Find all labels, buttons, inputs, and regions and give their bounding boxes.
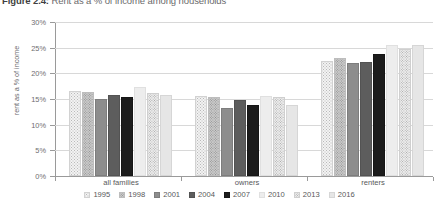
legend-swatch-icon xyxy=(119,192,125,198)
bar-2001-owners[interactable] xyxy=(221,108,233,176)
y-axis-label: 25% xyxy=(0,44,46,53)
bar-1995-renters[interactable] xyxy=(321,61,333,177)
legend-label: 1995 xyxy=(93,191,110,199)
bar-group: all families xyxy=(69,22,173,176)
bar-2013-renters[interactable] xyxy=(399,49,411,176)
legend-label: 2007 xyxy=(233,191,250,199)
x-axis-tick xyxy=(307,177,308,181)
legend-swatch-icon xyxy=(154,192,160,198)
legend-item-2013[interactable]: 2013 xyxy=(294,191,320,199)
legend-item-1998[interactable]: 1998 xyxy=(119,191,145,199)
y-axis-label: 10% xyxy=(0,121,46,130)
legend-label: 2001 xyxy=(163,191,180,199)
bar-1998-renters[interactable] xyxy=(334,58,346,176)
y-axis-label: 20% xyxy=(0,69,46,78)
bar-2016-owners[interactable] xyxy=(286,105,298,176)
legend-label: 1998 xyxy=(128,191,145,199)
bar-2004-renters[interactable] xyxy=(360,62,372,176)
legend-label: 2010 xyxy=(268,191,285,199)
x-axis-category-label: owners xyxy=(195,178,299,187)
figure-title-rest: Rent as a % of income among households xyxy=(49,0,226,6)
bar-2010-all-families[interactable] xyxy=(134,87,146,176)
bar-2001-renters[interactable] xyxy=(347,63,359,176)
x-axis-tick xyxy=(181,177,182,181)
figure-title-prefix: Figure 2.4: xyxy=(2,0,49,6)
bar-2007-renters[interactable] xyxy=(373,54,385,176)
bar-2004-all-families[interactable] xyxy=(108,95,120,176)
legend-swatch-icon xyxy=(329,192,335,198)
legend-swatch-icon xyxy=(189,192,195,198)
x-axis-category-label: renters xyxy=(321,178,425,187)
chart-legend: 19951998200120042007201020132016 xyxy=(0,188,439,202)
bar-1995-owners[interactable] xyxy=(195,96,207,176)
bar-2013-owners[interactable] xyxy=(273,97,285,176)
bar-2010-renters[interactable] xyxy=(386,45,398,176)
bar-2007-all-families[interactable] xyxy=(121,97,133,176)
bar-2013-all-families[interactable] xyxy=(147,93,159,176)
bar-2004-owners[interactable] xyxy=(234,100,246,176)
x-axis-category-label: all families xyxy=(69,178,173,187)
x-axis-tick xyxy=(55,177,56,181)
legend-item-2010[interactable]: 2010 xyxy=(259,191,285,199)
y-axis-label: 15% xyxy=(0,95,46,104)
bar-2016-all-families[interactable] xyxy=(160,95,172,176)
legend-swatch-icon xyxy=(84,192,90,198)
x-axis-tick xyxy=(433,177,434,181)
gridline xyxy=(55,176,433,177)
figure-title-text: Figure 2.4: Rent as a % of income among … xyxy=(2,0,226,6)
bar-1995-all-families[interactable] xyxy=(69,91,81,176)
figure-title: Figure 2.4: Rent as a % of income among … xyxy=(0,0,439,8)
legend-label: 2004 xyxy=(198,191,215,199)
bar-2016-renters[interactable] xyxy=(412,45,424,176)
legend-item-2004[interactable]: 2004 xyxy=(189,191,215,199)
legend-swatch-icon xyxy=(224,192,230,198)
plot-region: all familiesownersrenters xyxy=(55,22,433,176)
y-axis-label: 0% xyxy=(0,172,46,181)
legend-swatch-icon xyxy=(294,192,300,198)
bar-1998-owners[interactable] xyxy=(208,97,220,176)
legend-item-2001[interactable]: 2001 xyxy=(154,191,180,199)
bar-2010-owners[interactable] xyxy=(260,96,272,176)
legend-label: 2016 xyxy=(338,191,355,199)
legend-item-2016[interactable]: 2016 xyxy=(329,191,355,199)
bar-group: owners xyxy=(195,22,299,176)
bar-2001-all-families[interactable] xyxy=(95,99,107,176)
legend-label: 2013 xyxy=(303,191,320,199)
bar-2007-owners[interactable] xyxy=(247,105,259,176)
y-axis-title: rent as a % of income xyxy=(12,26,21,136)
legend-item-1995[interactable]: 1995 xyxy=(84,191,110,199)
bar-1998-all-families[interactable] xyxy=(82,92,94,176)
bar-group: renters xyxy=(321,22,425,176)
chart-area: rent as a % of income 0%5%10%15%20%25%30… xyxy=(0,8,439,186)
legend-item-2007[interactable]: 2007 xyxy=(224,191,250,199)
legend-swatch-icon xyxy=(259,192,265,198)
y-axis-label: 5% xyxy=(0,146,46,155)
y-axis-label: 30% xyxy=(0,18,46,27)
